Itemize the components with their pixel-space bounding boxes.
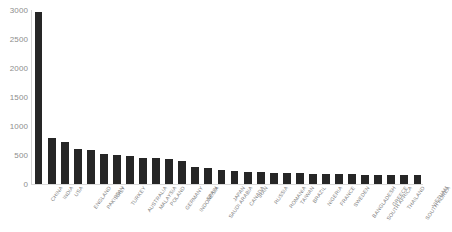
- bar: [322, 174, 330, 184]
- bar: [309, 174, 317, 184]
- bar: [270, 173, 278, 184]
- bar: [178, 161, 186, 184]
- bar: [231, 171, 239, 184]
- bar: [400, 175, 408, 184]
- bar: [74, 149, 82, 184]
- y-axis-tick-label: 1500: [10, 93, 28, 102]
- y-axis-tick-label: 1000: [10, 122, 28, 131]
- bar: [348, 174, 356, 184]
- bar: [165, 159, 173, 184]
- y-axis-tick-label: 500: [14, 151, 28, 160]
- x-axis-tick-label: RUSSIA: [272, 185, 289, 205]
- bar: [61, 142, 69, 184]
- bar: [296, 173, 304, 184]
- bar: [374, 175, 382, 184]
- x-axis-tick-label: TURKEY: [129, 185, 147, 206]
- x-axis-labels: CHINAINDIAUSAENGLANDPAKISTANITALYTURKEYA…: [32, 185, 424, 232]
- bar: [244, 172, 252, 184]
- y-axis-tick-label: 2500: [10, 35, 28, 44]
- bar: [139, 158, 147, 184]
- bar: [257, 172, 265, 184]
- bar: [361, 175, 369, 184]
- y-axis-tick-label: 3000: [10, 6, 28, 15]
- bar: [48, 138, 56, 184]
- y-axis: 050010001500200025003000: [0, 0, 32, 232]
- bar: [35, 12, 43, 184]
- bar: [335, 174, 343, 184]
- bar: [414, 175, 422, 184]
- bar: [100, 154, 108, 184]
- bar: [191, 167, 199, 184]
- bar: [218, 170, 226, 185]
- bar: [283, 173, 291, 184]
- bar: [87, 150, 95, 184]
- x-axis-tick-label: ITALY: [113, 185, 126, 200]
- y-axis-tick-label: 2000: [10, 64, 28, 73]
- bar: [126, 156, 134, 184]
- y-axis-tick-label: 0: [23, 180, 28, 189]
- bar: [204, 168, 212, 184]
- bar: [152, 158, 160, 184]
- x-axis-tick-label: CHINA: [49, 185, 64, 202]
- plot-area: [32, 10, 424, 184]
- x-axis-tick-label: VIETNAM: [431, 185, 450, 208]
- bar: [387, 175, 395, 184]
- bar: [113, 155, 121, 184]
